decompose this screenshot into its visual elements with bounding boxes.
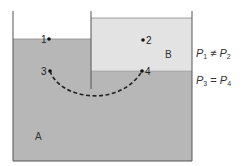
eq1-operator: ≠: [210, 47, 216, 59]
equation-p1-ne-p2: P1 ≠ P2: [196, 47, 231, 60]
eq1-lhs-sub: 1: [203, 53, 207, 60]
eq2-rhs-sub: 4: [227, 80, 231, 87]
point-1-dot: [47, 37, 51, 41]
point-4-label: 4: [145, 66, 151, 77]
equation-p3-eq-p4: P3 = P4: [196, 74, 231, 87]
eq1-rhs-sub: 2: [227, 53, 231, 60]
fluid-b-label: B: [165, 49, 172, 60]
point-3-dot: [48, 69, 52, 73]
fluid-b-region: [91, 18, 192, 71]
eq2-lhs-sub: 3: [203, 80, 207, 87]
point-4-dot: [140, 69, 144, 73]
fluid-a-label: A: [35, 131, 42, 142]
point-2-label: 2: [146, 35, 152, 46]
eq2-operator: =: [210, 74, 216, 86]
point-1-label: 1: [41, 34, 47, 45]
eq1-rhs-var: P: [219, 47, 226, 59]
point-3-label: 3: [41, 66, 47, 77]
point-2-dot: [141, 38, 145, 42]
